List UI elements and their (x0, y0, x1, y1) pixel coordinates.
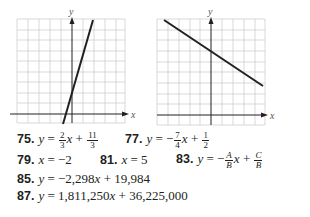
answer-87: 87.y = 1,811,250x + 36,225,000 (17, 189, 188, 203)
problem-number: 79. (17, 153, 34, 167)
fraction: 74 (174, 131, 181, 150)
x-arrow-icon (122, 112, 129, 117)
answer-75: 75.y = 23x + 113 (17, 131, 99, 150)
answer-graphs: y x y x (0, 0, 310, 130)
answer-79: 79.x = −2 (17, 153, 72, 167)
answer-81: 81.x = 5 (100, 153, 148, 167)
y-axis-label-75: y (68, 6, 74, 17)
grid-75 (17, 19, 125, 123)
x-axis-label-75: x (130, 109, 136, 120)
graph-77 (157, 17, 268, 125)
problem-number: 85. (17, 172, 34, 186)
x-axis-label-77: x (269, 110, 275, 121)
y-arrow-icon (70, 17, 75, 24)
fraction: 23 (59, 131, 66, 150)
fraction: AB (225, 151, 233, 170)
x-arrow-icon (261, 113, 268, 118)
problem-number: 75. (17, 132, 34, 146)
graph-75 (10, 17, 129, 124)
problem-number: 87. (17, 189, 34, 203)
fraction: CB (254, 151, 262, 170)
answer-85: 85.y = −2,298x + 19,984 (17, 172, 150, 186)
answer-77: 77.y = −74x + 12 (125, 131, 210, 150)
problem-number: 81. (100, 153, 117, 167)
problem-number: 77. (125, 132, 142, 146)
y-arrow-icon (209, 17, 214, 24)
fraction: 12 (202, 131, 209, 150)
fraction: 113 (87, 131, 98, 150)
answer-83: 83.y = −ABx + CB (176, 151, 263, 170)
problem-number: 83. (176, 152, 193, 166)
y-axis-label-77: y (207, 6, 213, 17)
